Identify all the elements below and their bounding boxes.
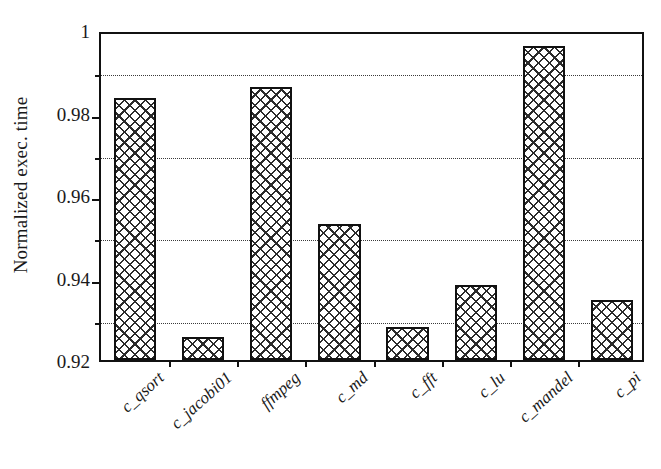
x-tick-label-c_jacobi01: c_jacobi01 [167, 368, 237, 433]
y-axis-title: Normalized exec. time [0, 0, 42, 370]
plot-area [99, 32, 644, 362]
bar-c_mandel [523, 46, 565, 360]
bar-c_lu [455, 285, 497, 360]
x-tick-label-c_qsort: c_qsort [117, 368, 168, 417]
bar-c_jacobi01 [182, 337, 224, 360]
bar-c_qsort [114, 98, 156, 360]
x-tick-label-c_md: c_md [332, 368, 373, 408]
x-tick-label-c_pi: c_pi [610, 368, 645, 402]
y-tick-label: 0.98 [57, 104, 90, 126]
chart-figure: Normalized exec. time 0.920.940.960.981 … [0, 0, 661, 469]
bar-c_fft [386, 327, 428, 360]
y-tick-label: 0.92 [57, 351, 90, 373]
bar-c_md [318, 224, 360, 360]
bar-ffmpeg [250, 87, 292, 360]
x-tick-label-c_fft: c_fft [405, 368, 441, 403]
y-tick-label: 0.94 [57, 269, 90, 291]
x-tick-label-c_mandel: c_mandel [515, 368, 577, 427]
x-axis-tick-labels: c_qsortc_jacobi01ffmpegc_mdc_fftc_luc_ma… [99, 362, 644, 469]
bar-c_pi [591, 300, 633, 360]
x-tick-label-c_lu: c_lu [474, 368, 509, 402]
bars-layer [101, 34, 642, 360]
x-tick-label-ffmpeg: ffmpeg [257, 368, 305, 414]
y-tick-label: 0.96 [57, 186, 90, 208]
y-axis-tick-labels: 0.920.940.960.981 [38, 0, 96, 469]
y-tick-label: 1 [81, 21, 91, 43]
y-axis-title-text: Normalized exec. time [10, 97, 32, 274]
